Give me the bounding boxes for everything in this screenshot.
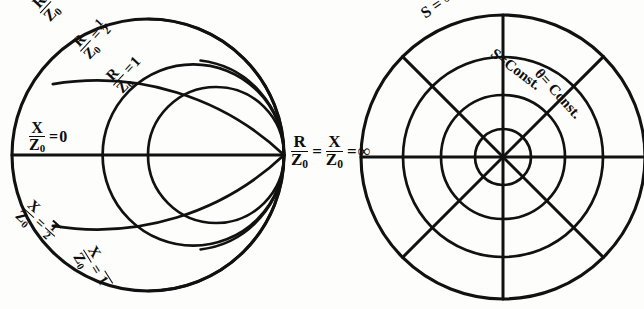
- left-reactance-arc-pos-half: [53, 80, 284, 155]
- label-infinity: R Z0 = X Z0 = ∞: [288, 133, 370, 170]
- label-x-zero: X Z0 = 0: [26, 120, 67, 154]
- figure-canvas: R Z0 = 0 R Z0 = 12 R Z0 = 1: [0, 0, 644, 309]
- left-reactance-arc-neg-half: [53, 155, 284, 230]
- left-chart-group: [12, 19, 284, 291]
